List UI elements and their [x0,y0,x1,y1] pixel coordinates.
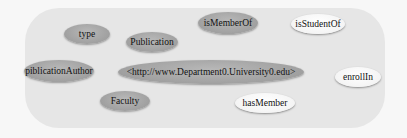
node-publication: Publication [126,32,178,52]
node-publication-author: piblicationAuthor [24,60,94,82]
node-is-student-of: isStudentOf [291,14,345,34]
node-is-member-of: isMemberOf [198,12,258,34]
node-enroll-in: enrollIn [335,67,381,87]
node-has-member: hasMember [235,93,295,113]
node-department-uri: <http://www.Department0.University0.edu> [118,60,304,84]
node-faculty: Faculty [100,91,150,111]
node-type: type [64,24,110,44]
